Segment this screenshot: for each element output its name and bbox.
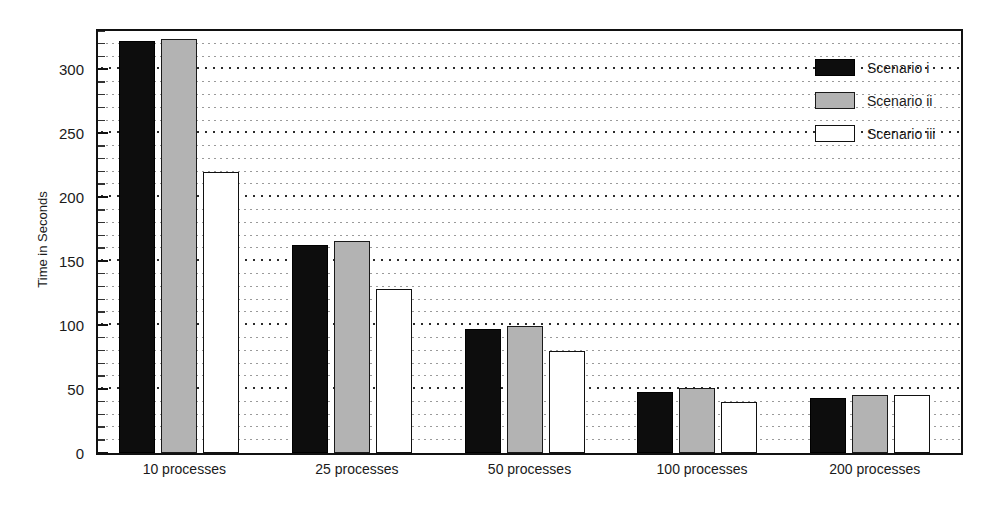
x-axis: 10 processes25 processes50 processes100 … bbox=[96, 461, 963, 491]
bar bbox=[549, 351, 585, 453]
y-tick-mark-minor bbox=[98, 414, 105, 416]
legend-label: Scenario iii bbox=[867, 126, 935, 142]
y-tick-mark-minor bbox=[98, 171, 105, 173]
x-tick-label: 100 processes bbox=[657, 461, 748, 477]
y-tick-mark-major bbox=[98, 68, 108, 71]
legend-item: Scenario ii bbox=[815, 88, 955, 113]
y-tick-mark-minor bbox=[98, 439, 105, 441]
x-tick-label: 10 processes bbox=[143, 461, 226, 477]
legend-swatch bbox=[815, 125, 855, 142]
x-tick-label: 200 processes bbox=[829, 461, 920, 477]
y-tick-mark-major bbox=[98, 196, 108, 199]
x-tick-label: 50 processes bbox=[488, 461, 571, 477]
y-tick-mark-minor bbox=[98, 183, 105, 185]
bar bbox=[465, 329, 501, 453]
y-tick-label: 100 bbox=[59, 318, 84, 333]
y-tick-mark-minor bbox=[98, 273, 105, 275]
y-tick-mark-minor bbox=[98, 43, 105, 45]
y-axis-title: Time in Seconds bbox=[35, 160, 50, 320]
bar bbox=[852, 395, 888, 453]
y-tick-mark-minor bbox=[98, 286, 105, 288]
y-tick-mark-minor bbox=[98, 235, 105, 237]
y-tick-mark-major bbox=[98, 388, 108, 391]
y-tick-mark-minor bbox=[98, 56, 105, 58]
legend-swatch bbox=[815, 92, 855, 109]
bar bbox=[292, 245, 328, 453]
legend-label: Scenario ii bbox=[867, 93, 932, 109]
y-tick-mark-minor bbox=[98, 145, 105, 147]
y-tick-mark-minor bbox=[98, 311, 105, 313]
legend-item: Scenario iii bbox=[815, 121, 955, 146]
y-tick-mark-major bbox=[98, 324, 108, 327]
legend-swatch bbox=[815, 59, 855, 76]
bar bbox=[119, 41, 155, 453]
y-tick-mark-minor bbox=[98, 247, 105, 249]
bar bbox=[637, 392, 673, 453]
y-tick-mark-minor bbox=[98, 375, 105, 377]
gridline-minor bbox=[98, 158, 961, 159]
bar bbox=[507, 326, 543, 453]
bar bbox=[894, 395, 930, 453]
y-tick-label: 150 bbox=[59, 254, 84, 269]
y-tick-mark-minor bbox=[98, 94, 105, 96]
y-tick-mark-minor bbox=[98, 401, 105, 403]
y-tick-label: 300 bbox=[59, 62, 84, 77]
gridline-minor bbox=[98, 43, 961, 44]
chart-legend: Scenario iScenario iiScenario iii bbox=[815, 55, 955, 154]
y-tick-mark-minor bbox=[98, 81, 105, 83]
bar-chart-figure: Time in Seconds 050100150200250300 10 pr… bbox=[0, 0, 985, 506]
y-axis: Time in Seconds 050100150200250300 bbox=[0, 0, 96, 506]
y-tick-label: 50 bbox=[67, 382, 84, 397]
y-tick-mark-minor bbox=[98, 158, 105, 160]
y-tick-mark-minor bbox=[98, 363, 105, 365]
bar bbox=[203, 172, 239, 453]
y-tick-mark-minor bbox=[98, 426, 105, 428]
y-tick-mark-minor bbox=[98, 222, 105, 224]
y-tick-mark-minor bbox=[98, 350, 105, 352]
y-tick-mark-major bbox=[98, 452, 108, 454]
y-tick-label: 200 bbox=[59, 190, 84, 205]
x-tick-label: 25 processes bbox=[315, 461, 398, 477]
y-tick-mark-minor bbox=[98, 299, 105, 301]
bar bbox=[721, 402, 757, 453]
y-tick-mark-major bbox=[98, 260, 108, 263]
legend-label: Scenario i bbox=[867, 60, 929, 76]
y-tick-mark-major bbox=[98, 132, 108, 135]
y-tick-label: 0 bbox=[76, 446, 84, 461]
y-tick-mark-minor bbox=[98, 209, 105, 211]
y-tick-mark-minor bbox=[98, 120, 105, 122]
bar bbox=[810, 398, 846, 453]
bar bbox=[679, 388, 715, 453]
y-tick-mark-minor bbox=[98, 31, 105, 32]
legend-item: Scenario i bbox=[815, 55, 955, 80]
y-tick-mark-minor bbox=[98, 107, 105, 109]
y-tick-mark-minor bbox=[98, 337, 105, 339]
bar bbox=[334, 241, 370, 453]
y-tick-label: 250 bbox=[59, 126, 84, 141]
bar bbox=[376, 289, 412, 453]
bar bbox=[161, 39, 197, 453]
